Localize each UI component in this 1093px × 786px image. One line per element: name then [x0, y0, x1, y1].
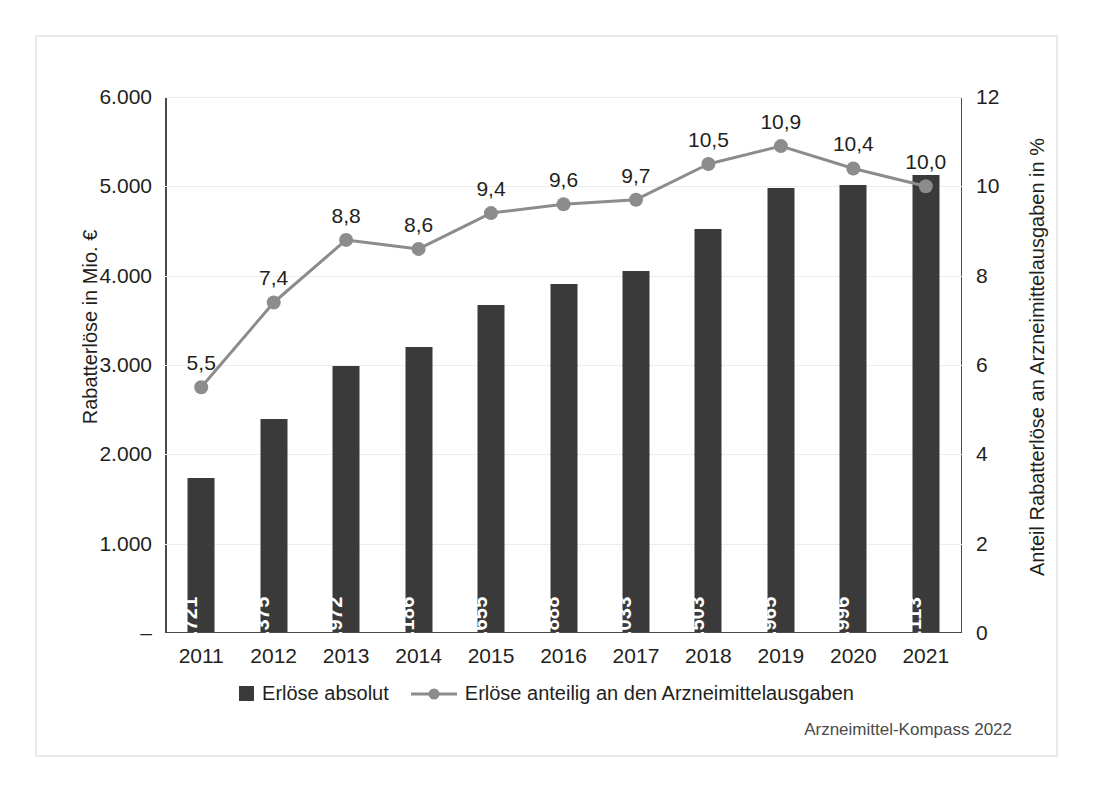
line-marker[interactable]: [629, 193, 643, 207]
line-value-label: 5,5: [187, 351, 216, 375]
line-value-label: 7,4: [259, 266, 288, 290]
x-tick-label: 2019: [758, 644, 805, 668]
bar-value-label: 3.888: [541, 596, 564, 647]
x-tick-label: 2021: [902, 644, 949, 668]
bar-value-label: 5.113: [903, 597, 926, 647]
bar-value-label: 4.503: [685, 596, 708, 647]
y-axis-title-left: Rabatterlöse in Mio. €: [79, 230, 102, 425]
line-marker[interactable]: [484, 206, 498, 220]
y-tick-label-left: –: [140, 621, 152, 645]
y-tick-label-right: 0: [976, 621, 988, 645]
line-marker[interactable]: [701, 157, 715, 171]
bar-value-label: 2.375: [251, 596, 274, 647]
source-note: Arzneimittel-Kompass 2022: [804, 720, 1012, 740]
line-value-label: 10,5: [688, 128, 729, 152]
y-tick-label-left: 1.000: [99, 532, 152, 556]
bar-value-label: 4.965: [758, 596, 781, 647]
line-value-label: 10,0: [905, 150, 946, 174]
bar[interactable]: 5.113: [912, 175, 939, 632]
y-axis-title-right: Anteil Rabatterlöse an Arzneimittelausga…: [1026, 138, 1049, 576]
y-tick-label-right: 6: [976, 353, 988, 377]
bar[interactable]: 2.972: [333, 366, 360, 631]
line-value-label: 9,7: [621, 164, 650, 188]
bar-value-label: 4.996: [830, 596, 853, 647]
legend-item-line[interactable]: Erlöse anteilig an den Arzneimittelausga…: [411, 682, 854, 705]
line-value-label: 9,4: [476, 177, 505, 201]
line-value-label: 8,8: [332, 204, 361, 228]
y-tick-label-right: 8: [976, 264, 988, 288]
bar-swatch-icon: [239, 686, 254, 701]
x-tick-label: 2016: [540, 644, 587, 668]
x-tick-label: 2011: [179, 644, 224, 668]
plot-area: –1.0002.0003.0004.0005.0006.000 02468101…: [165, 97, 962, 633]
x-tick-label: 2014: [395, 644, 442, 668]
line-marker[interactable]: [194, 380, 208, 394]
bar-value-label: 3.186: [396, 596, 419, 647]
y-tick-label-right: 10: [976, 174, 999, 198]
line-value-label: 10,9: [760, 110, 801, 134]
bar-value-label: 3.655: [468, 596, 491, 647]
bar-value-label: 1.721: [178, 596, 201, 647]
y-tick-label-left: 3.000: [99, 353, 152, 377]
bar[interactable]: 3.186: [405, 347, 432, 632]
bar[interactable]: 4.996: [840, 185, 867, 631]
y-tick-label-left: 2.000: [99, 442, 152, 466]
bar-value-label: 2.972: [323, 596, 346, 647]
legend-item-bar[interactable]: Erlöse absolut: [239, 682, 389, 705]
line-value-label: 9,6: [549, 168, 578, 192]
bar[interactable]: 3.655: [478, 305, 505, 632]
y-tick-label-left: 6.000: [99, 85, 152, 109]
gridline: [165, 97, 962, 98]
legend-label-bar: Erlöse absolut: [262, 682, 389, 705]
line-marker[interactable]: [267, 296, 281, 310]
x-tick-label: 2013: [323, 644, 370, 668]
y-tick-label-right: 12: [976, 85, 999, 109]
y-tick-label-left: 5.000: [99, 174, 152, 198]
chart-figure: Rabatterlöse in Mio. € Anteil Rabatterlö…: [35, 35, 1058, 757]
bar[interactable]: 4.965: [767, 188, 794, 632]
line-value-label: 8,6: [404, 213, 433, 237]
bar[interactable]: 2.375: [260, 419, 287, 631]
line-marker[interactable]: [774, 139, 788, 153]
bar[interactable]: 3.888: [550, 284, 577, 631]
line-swatch-icon: [411, 687, 457, 701]
y-tick-label-right: 2: [976, 532, 988, 556]
x-tick-label: 2020: [830, 644, 877, 668]
line-marker[interactable]: [339, 233, 353, 247]
bar-value-label: 4.033: [613, 596, 636, 647]
chart-legend: Erlöse absolut Erlöse anteilig an den Ar…: [37, 682, 1056, 705]
y-tick-label-left: 4.000: [99, 264, 152, 288]
bar[interactable]: 1.721: [188, 478, 215, 632]
legend-label-line: Erlöse anteilig an den Arzneimittelausga…: [465, 682, 854, 705]
y-tick-label-right: 4: [976, 442, 988, 466]
line-marker[interactable]: [846, 162, 860, 176]
bar[interactable]: 4.503: [695, 229, 722, 631]
bar[interactable]: 4.033: [622, 271, 649, 631]
line-marker[interactable]: [412, 242, 426, 256]
x-tick-label: 2015: [468, 644, 515, 668]
x-tick-label: 2012: [250, 644, 297, 668]
x-tick-label: 2018: [685, 644, 732, 668]
x-tick-label: 2017: [613, 644, 660, 668]
line-marker[interactable]: [557, 197, 571, 211]
line-value-label: 10,4: [833, 132, 874, 156]
